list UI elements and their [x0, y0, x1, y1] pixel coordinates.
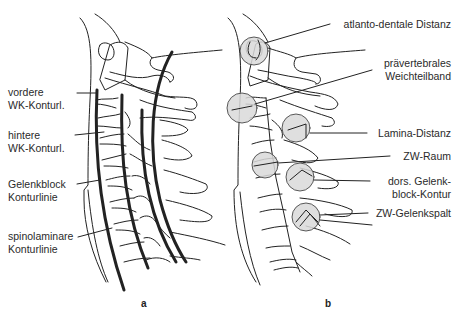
spinolaminare-konturlinie	[153, 52, 186, 262]
label-dors-gelenkblock-kontur: dors. Gelenk- block-Kontur	[388, 175, 451, 201]
spine-diagram	[0, 0, 459, 315]
label-zw-raum: ZW-Raum	[403, 150, 451, 163]
label-vordere-wk-konturlinie: vordere WK-Konturl.	[8, 86, 65, 112]
circle-gelenkspalt	[292, 203, 320, 231]
label-spinolaminare-konturlinie: spinolaminare Konturlinie	[8, 230, 73, 256]
panel-letter-b: b	[325, 298, 331, 309]
panel-letter-a: a	[141, 298, 147, 309]
leader-lines-a	[75, 93, 112, 237]
label-atlanto-dentale-distanz: atlanto-dentale Distanz	[344, 18, 451, 31]
gelenkblock-konturlinie	[142, 110, 176, 262]
label-gelenkblock-konturlinie: Gelenkblock Konturlinie	[8, 178, 66, 204]
label-hintere-wk-konturlinie: hintere WK-Konturl.	[8, 129, 65, 155]
circle-zw-raum	[252, 152, 278, 178]
label-lamina-distanz: Lamina-Distanz	[378, 127, 451, 140]
circle-gelenkblock	[286, 163, 314, 191]
label-zw-gelenkspalt: ZW-Gelenkspalt	[376, 207, 451, 220]
circle-atlanto-dental	[240, 37, 268, 65]
label-praevertebrales-weichteilband: prävertebrales Weichteilband	[384, 57, 451, 83]
